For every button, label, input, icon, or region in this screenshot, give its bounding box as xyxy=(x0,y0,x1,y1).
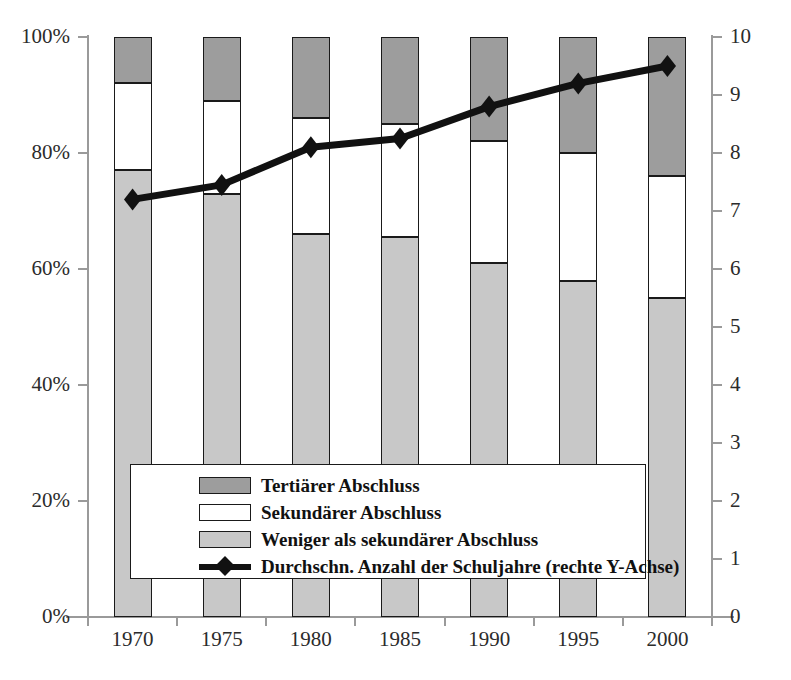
legend-item-label: Tertiärer Abschluss xyxy=(261,476,420,496)
bar-segment[interactable] xyxy=(381,124,419,237)
left-axis-tick-label: 0% xyxy=(8,606,70,627)
x-axis-tick-label: 1970 xyxy=(93,628,173,650)
chart-legend: Tertiärer AbschlussSekundärer AbschlussW… xyxy=(130,464,646,579)
right-axis-tick xyxy=(713,500,722,502)
left-axis-line xyxy=(87,35,89,619)
bar-segment[interactable] xyxy=(203,101,241,194)
right-axis-tick xyxy=(713,616,722,618)
right-axis-tick-label: 0 xyxy=(730,606,760,627)
bar-segment[interactable] xyxy=(648,37,686,176)
left-axis-tick-label: 40% xyxy=(8,374,70,395)
x-axis-tick xyxy=(176,617,178,626)
bar-segment[interactable] xyxy=(470,141,508,263)
x-axis-tick xyxy=(87,617,89,626)
legend-swatch-icon xyxy=(199,531,251,548)
bar-segment[interactable] xyxy=(470,37,508,141)
x-axis-tick xyxy=(354,617,356,626)
right-axis-tick xyxy=(713,384,722,386)
x-axis-tick xyxy=(711,617,713,626)
right-axis-tick-label: 9 xyxy=(730,84,760,105)
right-axis-tick xyxy=(713,210,722,212)
right-axis-tick-label: 5 xyxy=(730,316,760,337)
x-axis-tick-label: 1990 xyxy=(449,628,529,650)
left-axis-tick xyxy=(78,500,87,502)
legend-line-marker-icon xyxy=(199,558,251,575)
x-axis-tick xyxy=(265,617,267,626)
right-axis-tick xyxy=(713,442,722,444)
left-axis-tick-label: 80% xyxy=(8,142,70,163)
legend-item[interactable]: Tertiärer Abschluss xyxy=(131,472,645,499)
right-axis-tick-label: 3 xyxy=(730,432,760,453)
right-axis-tick-label: 4 xyxy=(730,374,760,395)
bar-segment[interactable] xyxy=(648,176,686,298)
left-axis-tick xyxy=(78,384,87,386)
legend-item[interactable]: Weniger als sekundärer Abschluss xyxy=(131,526,645,553)
legend-item-label: Durchschn. Anzahl der Schuljahre (rechte… xyxy=(261,557,679,577)
bar-segment[interactable] xyxy=(292,37,330,118)
bar-segment[interactable] xyxy=(203,37,241,101)
right-axis-tick-label: 8 xyxy=(730,142,760,163)
right-axis-tick xyxy=(713,268,722,270)
bar-2000[interactable] xyxy=(648,37,686,617)
left-axis-tick-label: 100% xyxy=(8,26,70,47)
right-axis-tick xyxy=(713,94,722,96)
bar-segment[interactable] xyxy=(292,118,330,234)
bar-segment[interactable] xyxy=(559,37,597,153)
left-axis-tick xyxy=(78,36,87,38)
x-axis-tick-label: 1980 xyxy=(271,628,351,650)
left-axis-tick xyxy=(78,268,87,270)
left-axis-tick-label: 20% xyxy=(8,490,70,511)
legend-item-label: Sekundärer Abschluss xyxy=(261,503,441,523)
bar-segment[interactable] xyxy=(114,37,152,83)
right-axis-tick-label: 1 xyxy=(730,548,760,569)
legend-item[interactable]: Sekundärer Abschluss xyxy=(131,499,645,526)
right-axis-tick xyxy=(713,152,722,154)
right-axis-tick-label: 10 xyxy=(730,26,760,47)
left-axis-tick-label: 60% xyxy=(8,258,70,279)
x-axis-tick-label: 1985 xyxy=(360,628,440,650)
x-axis-tick-label: 2000 xyxy=(627,628,707,650)
legend-item-label: Weniger als sekundärer Abschluss xyxy=(261,530,538,550)
right-axis-tick-label: 6 xyxy=(730,258,760,279)
right-axis-tick xyxy=(713,558,722,560)
legend-swatch-icon xyxy=(199,477,251,494)
right-axis-tick-label: 2 xyxy=(730,490,760,511)
legend-swatch-icon xyxy=(199,504,251,521)
x-axis-tick-label: 1995 xyxy=(538,628,618,650)
x-axis-tick xyxy=(444,617,446,626)
right-axis-tick xyxy=(713,36,722,38)
left-axis-tick xyxy=(78,616,87,618)
left-axis-tick xyxy=(78,152,87,154)
legend-item[interactable]: Durchschn. Anzahl der Schuljahre (rechte… xyxy=(131,553,645,580)
bar-segment[interactable] xyxy=(114,83,152,170)
x-axis-tick-label: 1975 xyxy=(182,628,262,650)
chart-container: 0%20%40%60%80%100% 012345678910 19701975… xyxy=(0,0,791,680)
x-axis-tick xyxy=(622,617,624,626)
bar-segment[interactable] xyxy=(559,153,597,281)
right-axis-tick xyxy=(713,326,722,328)
bar-segment[interactable] xyxy=(381,37,419,124)
x-axis-tick xyxy=(533,617,535,626)
right-axis-tick-label: 7 xyxy=(730,200,760,221)
